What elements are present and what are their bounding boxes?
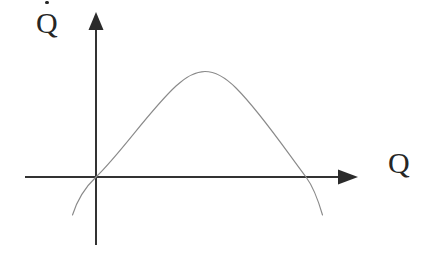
y-axis-arrowhead-icon [89,12,104,30]
x-axis-label: Q [388,148,410,178]
x-axis-arrowhead-icon [338,170,358,185]
plot-svg [0,0,435,262]
y-axis-label: Q [36,8,58,38]
parabola-curve [73,72,323,216]
y-axis-label-letter: Q [36,6,58,39]
figure-canvas: Q Q [0,0,435,262]
y-axis-label-glyph: Q [36,8,58,38]
overdot-icon [45,1,48,4]
